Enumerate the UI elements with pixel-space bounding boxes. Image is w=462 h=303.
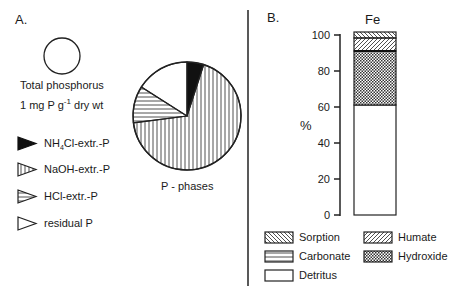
legend-swatch-hydroxide (364, 251, 392, 262)
bar-segment-humate (354, 38, 396, 51)
panel-b-label: B. (267, 10, 279, 25)
legend-label-hcl: HCl-extr.-P (44, 190, 98, 202)
legend-swatch-detritus (265, 270, 293, 281)
bar-segment-sorption (354, 32, 396, 38)
pie-caption: P - phases (161, 180, 213, 192)
y-tick-0: 0 (310, 209, 330, 221)
legend-label-hydroxide: Hydroxide (398, 250, 448, 262)
legend-label-nh4cl: NH4Cl-extr.-P (44, 137, 110, 151)
unit-text-post: dry wt (74, 99, 103, 111)
legend-swatch-hcl (18, 190, 36, 203)
legend-text: Cl-extr.-P (64, 137, 110, 149)
y-tick-20: 20 (310, 173, 330, 185)
total-phosphorus-unit: 1 mg P g-1 dry wt (20, 97, 103, 111)
unit-text: 1 mg P g (20, 99, 64, 111)
legend-label-detritus: Detritus (299, 269, 337, 281)
legend-swatch-residual (18, 217, 36, 230)
fe-stacked-bar (354, 32, 396, 215)
y-tick-60: 60 (310, 101, 330, 113)
legend-label-naoh: NaOH-extr.-P (44, 163, 110, 175)
legend-label-carbonate: Carbonate (299, 250, 350, 262)
total-phosphorus-label: Total phosphorus (20, 79, 104, 91)
bar-segment-hydroxide (354, 51, 396, 105)
legend-label-humate: Humate (398, 231, 437, 243)
y-axis (334, 34, 340, 216)
y-tick-40: 40 (310, 137, 330, 149)
total-phosphorus-circle (44, 38, 80, 74)
legend-label-residual: residual P (44, 217, 93, 229)
legend-swatch-naoh (18, 163, 36, 176)
legend-swatch-sorption (265, 232, 293, 243)
legend-label-sorption: Sorption (299, 231, 340, 243)
y-tick-80: 80 (310, 65, 330, 77)
y-axis-label: % (300, 118, 312, 133)
legend-swatch-carbonate (265, 251, 293, 262)
bar-title: Fe (365, 12, 380, 27)
p-phases-pie (133, 62, 241, 170)
y-tick-100: 100 (310, 29, 330, 41)
panel-a-label: A. (15, 12, 27, 27)
legend-text: NH (44, 137, 60, 149)
figure-canvas (0, 0, 462, 303)
unit-exponent: -1 (64, 97, 71, 106)
legend-swatch-humate (364, 232, 392, 243)
legend-swatch-nh4cl (18, 137, 36, 150)
bar-segment-detritus (354, 105, 396, 215)
legend-icons-a (18, 137, 36, 230)
